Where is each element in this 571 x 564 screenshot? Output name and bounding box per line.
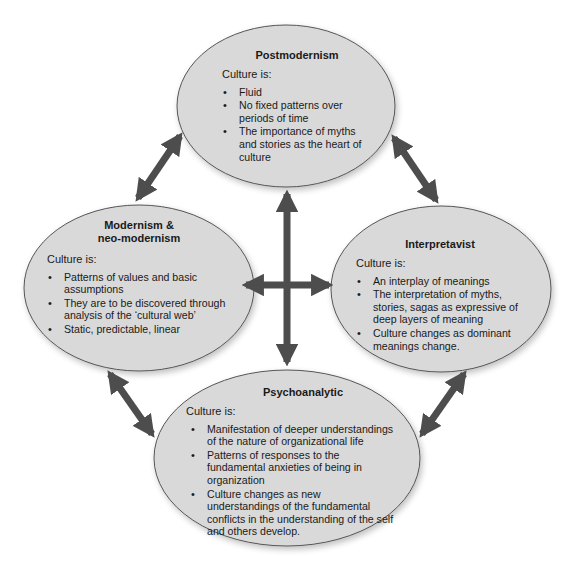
- arrow-right-bottom-icon: [422, 374, 464, 434]
- list-item: Manifestation of deeper understandings o…: [190, 423, 396, 448]
- psychoanalytic-node: Psychoanalytic Culture is: Manifestation…: [186, 386, 396, 539]
- postmodernism-title: Postmodernism: [222, 49, 372, 62]
- list-item: The interpretation of myths, stories, sa…: [356, 288, 534, 326]
- interpretavist-node: Interpretavist Culture is: An interplay …: [356, 238, 534, 353]
- list-item: The importance of myths and stories as t…: [222, 125, 372, 163]
- arrow-top-right-icon: [394, 138, 436, 200]
- postmodernism-list: Fluid No fixed patterns over periods of …: [222, 86, 372, 164]
- list-item: Culture changes as dominant meanings cha…: [356, 327, 534, 352]
- arrow-top-left-icon: [138, 136, 180, 198]
- modernism-node: Modernism & neo-modernism Culture is: Pa…: [47, 219, 231, 337]
- psychoanalytic-list: Manifestation of deeper understandings o…: [186, 423, 396, 538]
- list-item: Patterns of responses to the fundamental…: [190, 449, 396, 487]
- psychoanalytic-title: Psychoanalytic: [186, 386, 396, 399]
- interpretavist-title: Interpretavist: [356, 238, 534, 251]
- psychoanalytic-lead: Culture is:: [186, 405, 396, 418]
- list-item: Culture changes as new understandings of…: [190, 488, 396, 538]
- list-item: An interplay of meanings: [356, 275, 534, 288]
- postmodernism-lead: Culture is:: [222, 68, 372, 81]
- modernism-title-line1: Modernism &: [47, 219, 231, 232]
- arrow-left-bottom-icon: [110, 374, 152, 434]
- modernism-list: Patterns of values and basic assumptions…: [47, 271, 231, 336]
- interpretavist-list: An interplay of meanings The interpretat…: [356, 275, 534, 353]
- modernism-lead: Culture is:: [47, 253, 231, 266]
- list-item: Fluid: [222, 86, 372, 99]
- list-item: No fixed patterns over periods of time: [222, 99, 372, 124]
- postmodernism-node: Postmodernism Culture is: Fluid No fixed…: [222, 49, 372, 164]
- modernism-title-line2: neo-modernism: [47, 232, 231, 245]
- list-item: Static, predictable, linear: [47, 323, 231, 336]
- list-item: Patterns of values and basic assumptions: [47, 271, 231, 296]
- modernism-title: Modernism & neo-modernism: [47, 219, 231, 245]
- list-item: They are to be discovered through analys…: [47, 297, 231, 322]
- interpretavist-lead: Culture is:: [356, 257, 534, 270]
